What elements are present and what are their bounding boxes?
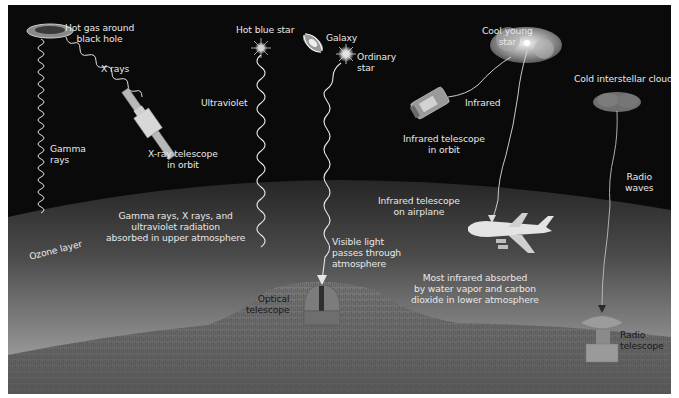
label-ultraviolet: Ultraviolet xyxy=(201,97,248,108)
infrared-satellite-icon xyxy=(408,86,450,121)
label-text: Hot gas around black hole xyxy=(65,22,134,44)
label-hot-blue-star: Hot blue star xyxy=(236,24,294,35)
label-radio-waves: Radio waves xyxy=(625,171,654,193)
label-ir-telescope-airplane: Infrared telescope on airplane xyxy=(378,195,460,217)
label-infrared: Infrared xyxy=(465,97,500,108)
label-upper-absorption: Gamma rays, X rays, and ultraviolet radi… xyxy=(106,210,245,243)
ordinary-star-icon xyxy=(336,44,356,64)
label-xray-telescope: X-ray telescope in orbit xyxy=(148,148,218,170)
label-ir-absorbed: Most infrared absorbed by water vapor an… xyxy=(411,272,539,305)
label-galaxy: Galaxy xyxy=(326,32,357,43)
label-ordinary-star: Ordinary star xyxy=(357,51,396,73)
atmospheric-windows-diagram: Hot gas around black hole X rays Gamma r… xyxy=(8,5,671,394)
label-ir-telescope-orbit: Infrared telescope in orbit xyxy=(403,133,485,155)
label-radio-telescope: Radio telescope xyxy=(620,329,664,351)
label-visible-passes: Visible light passes through atmosphere xyxy=(332,236,401,269)
galaxy-icon xyxy=(300,31,326,56)
label-gamma-rays: Gamma rays xyxy=(50,143,86,165)
cold-cloud-icon xyxy=(593,92,641,112)
infrared-wave-orbit xyxy=(448,57,511,97)
label-cold-cloud: Cold interstellar cloud xyxy=(574,73,671,84)
optical-observatory-icon xyxy=(304,285,340,325)
gamma-ray-wave xyxy=(38,39,44,213)
label-cool-young-star: Cool young star xyxy=(482,25,533,47)
label-x-rays: X rays xyxy=(101,63,129,74)
label-black-hole: Hot gas around black hole xyxy=(65,22,134,44)
label-optical-telescope: Optical telescope xyxy=(246,293,290,315)
